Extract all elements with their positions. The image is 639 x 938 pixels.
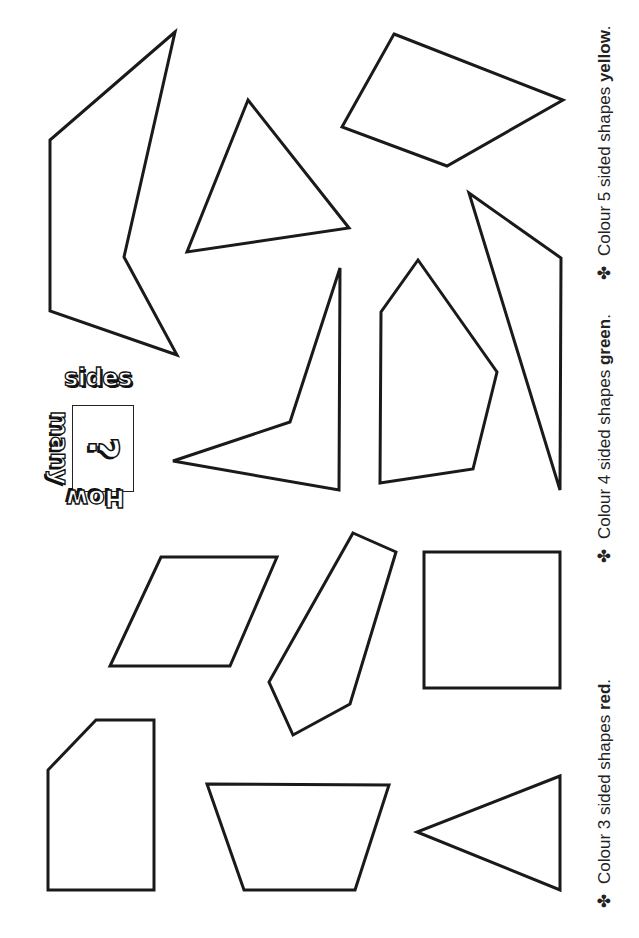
instruction-punct: .: [595, 314, 614, 319]
shape-pentagon-house[interactable]: [380, 260, 497, 483]
shape-quadrilateral-concave[interactable]: [173, 268, 340, 490]
question-mark-box: ?: [72, 405, 134, 492]
instruction-color-word: yellow: [595, 30, 614, 82]
instruction-5-sided: ✤Colour 5 sided shapes yellow.: [594, 25, 615, 280]
instruction-3-sided: ✤Colour 3 sided shapes red.: [594, 679, 615, 908]
clover-bullet-icon: ✤: [595, 894, 614, 908]
shape-parallelogram[interactable]: [110, 557, 277, 666]
instruction-color-word: red: [595, 684, 614, 710]
shape-pentagon-cut-corner[interactable]: [48, 720, 154, 890]
instruction-punct: .: [595, 679, 614, 684]
shape-square[interactable]: [424, 552, 560, 688]
question-mark-icon: ?: [61, 419, 146, 479]
title-word-how: How: [66, 486, 125, 510]
shape-triangle-long-right[interactable]: [469, 193, 561, 490]
instruction-punct: .: [595, 25, 614, 30]
clover-bullet-icon: ✤: [595, 266, 614, 280]
instruction-color-word: green: [595, 319, 614, 365]
shape-triangle-lower[interactable]: [417, 776, 560, 890]
title-word-sides: sides: [64, 366, 132, 390]
instruction-4-sided: ✤Colour 4 sided shapes green.: [594, 314, 615, 563]
shape-triangle-upper[interactable]: [187, 100, 349, 252]
shape-pentagon-tilted[interactable]: [269, 533, 396, 735]
shape-trapezoid[interactable]: [207, 784, 389, 890]
instruction-text: Colour 4 sided shapes: [595, 365, 614, 539]
shape-quadrilateral-top-right[interactable]: [342, 34, 563, 166]
clover-bullet-icon: ✤: [595, 549, 614, 563]
shape-pentagon-concave-left[interactable]: [50, 32, 177, 355]
instruction-text: Colour 3 sided shapes: [595, 710, 614, 884]
instruction-text: Colour 5 sided shapes: [595, 82, 614, 256]
